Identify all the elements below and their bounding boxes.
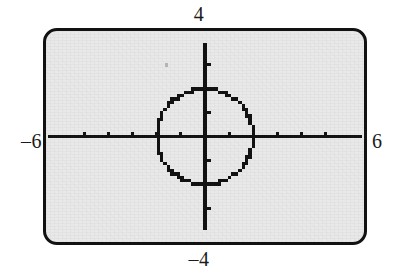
calculator-figure: 4 –6 6 –4 [0,0,398,274]
plot-canvas [46,31,364,242]
x-min-label: –6 [2,131,42,151]
y-max-label: 4 [0,4,398,24]
scan-speck-artifact [165,63,168,67]
x-max-label: 6 [372,131,398,151]
calculator-screen [43,28,367,245]
y-min-label: –4 [0,249,398,269]
